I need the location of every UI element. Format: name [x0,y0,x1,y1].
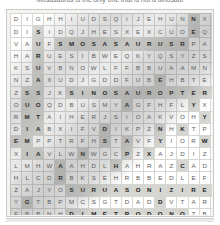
grid-cell[interactable]: A [155,160,166,172]
grid-cell[interactable]: I [166,135,177,147]
grid-cell[interactable]: I [55,111,66,123]
grid-cell[interactable]: O [11,99,22,111]
grid-cell[interactable]: R [144,87,155,99]
grid-cell[interactable]: U [133,38,144,50]
grid-cell[interactable]: S [55,38,66,50]
grid-cell[interactable]: O [133,209,144,216]
grid-cell[interactable]: C [155,26,166,38]
grid-cell[interactable]: E [99,209,110,216]
grid-cell[interactable]: L [99,62,110,74]
grid-cell[interactable]: C [77,196,88,208]
grid-cell[interactable]: N [144,184,155,196]
grid-cell[interactable]: P [188,38,199,50]
grid-cell[interactable]: H [44,14,55,26]
grid-cell[interactable]: V [44,62,55,74]
grid-cell[interactable]: H [166,123,177,135]
grid-cell[interactable]: E [155,172,166,184]
grid-cell[interactable]: W [99,50,110,62]
grid-cell[interactable]: B [144,74,155,86]
grid-cell[interactable]: E [133,26,144,38]
grid-cell[interactable]: A [22,38,33,50]
grid-cell[interactable]: D [99,74,110,86]
grid-cell[interactable]: E [55,50,66,62]
grid-cell[interactable]: S [22,62,33,74]
grid-cell[interactable]: S [22,87,33,99]
grid-cell[interactable]: B [144,172,155,184]
grid-cell[interactable]: R [210,148,212,160]
grid-cell[interactable]: R [11,111,22,123]
grid-cell[interactable]: F [166,99,177,111]
grid-cell[interactable]: Z [210,196,212,208]
grid-cell[interactable]: Q [121,50,132,62]
grid-cell[interactable]: R [121,172,132,184]
grid-cell[interactable]: S [88,172,99,184]
grid-cell[interactable]: T [177,87,188,99]
grid-cell[interactable]: L [177,172,188,184]
grid-cell[interactable]: Q [44,99,55,111]
grid-cell[interactable]: U [77,184,88,196]
grid-cell[interactable]: N [66,62,77,74]
grid-cell[interactable]: B [199,209,210,216]
grid-cell[interactable]: E [199,184,210,196]
grid-cell[interactable]: P [55,196,66,208]
grid-cell[interactable]: P [210,14,212,26]
grid-cell[interactable]: L [22,172,33,184]
grid-cell[interactable]: X [199,99,210,111]
word-search-grid[interactable]: DIGHHIUDSQIJEHUNNXPWDISIDQJHESXEXCUOEQWD… [10,13,212,215]
grid-cell[interactable]: K [133,50,144,62]
grid-cell[interactable]: S [110,87,121,99]
grid-cell[interactable]: V [166,196,177,208]
grid-cell[interactable]: J [77,26,88,38]
grid-cell[interactable]: Z [144,123,155,135]
grid-cell[interactable]: H [55,14,66,26]
grid-cell[interactable]: N [199,62,210,74]
grid-cell[interactable]: N [11,74,22,86]
grid-cell[interactable]: M [22,111,33,123]
grid-cell[interactable]: J [210,62,212,74]
grid-cell[interactable]: E [99,172,110,184]
grid-cell[interactable]: W [199,135,210,147]
grid-cell[interactable]: I [155,184,166,196]
grid-cell[interactable]: I [77,50,88,62]
grid-cell[interactable]: W [66,148,77,160]
grid-cell[interactable]: D [11,14,22,26]
grid-cell[interactable]: K [121,123,132,135]
grid-cell[interactable]: F [110,62,121,74]
grid-cell[interactable]: M [88,209,99,216]
grid-cell[interactable]: H [155,14,166,26]
grid-cell[interactable]: Y [188,99,199,111]
grid-cell[interactable]: A [133,196,144,208]
grid-cell[interactable]: D [144,209,155,216]
grid-cell[interactable]: V [44,148,55,160]
grid-cell[interactable]: S [99,14,110,26]
grid-cell[interactable]: J [133,14,144,26]
grid-cell[interactable]: E [11,135,22,147]
grid-cell[interactable]: K [77,172,88,184]
grid-cell[interactable]: U [133,74,144,86]
grid-cell[interactable]: J [77,74,88,86]
grid-cell[interactable]: P [199,123,210,135]
grid-cell[interactable]: Q [199,26,210,38]
grid-cell[interactable]: E [110,50,121,62]
grid-cell[interactable]: B [44,123,55,135]
grid-cell[interactable]: S [66,184,77,196]
grid-cell[interactable]: A [199,38,210,50]
grid-cell[interactable]: R [121,209,132,216]
grid-cell[interactable]: I [66,14,77,26]
grid-cell[interactable]: A [177,62,188,74]
grid-cell[interactable]: U [33,38,44,50]
grid-cell[interactable]: E [188,87,199,99]
grid-cell[interactable]: A [188,196,199,208]
grid-cell[interactable]: H [188,111,199,123]
grid-cell[interactable]: F [144,99,155,111]
grid-cell[interactable]: J [99,111,110,123]
grid-cell[interactable]: N [188,14,199,26]
grid-cell[interactable]: T [188,74,199,86]
grid-cell[interactable]: Z [188,50,199,62]
grid-cell[interactable]: J [166,148,177,160]
grid-cell[interactable]: A [33,148,44,160]
grid-cell[interactable]: B [133,62,144,74]
grid-cell[interactable]: R [199,196,210,208]
grid-cell[interactable]: R [144,160,155,172]
grid-cell[interactable]: A [166,62,177,74]
